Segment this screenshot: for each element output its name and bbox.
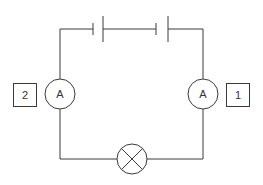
wire-top-right xyxy=(168,29,203,79)
label-box-1: 1 xyxy=(227,84,250,107)
ammeter-left-icon: A xyxy=(45,79,75,109)
wire-top-left xyxy=(60,29,93,79)
lamp-icon xyxy=(117,144,147,174)
ammeter-left-symbol: A xyxy=(56,88,64,100)
label-2-text: 2 xyxy=(22,89,28,101)
label-box-2: 2 xyxy=(14,84,37,107)
ammeter-right-icon: A xyxy=(188,79,218,109)
wire-bottom-right xyxy=(147,109,203,159)
wires xyxy=(60,29,203,159)
label-1-text: 1 xyxy=(235,89,241,101)
circuit-diagram: A A 2 1 xyxy=(0,0,263,185)
ammeter-right-symbol: A xyxy=(199,88,207,100)
wire-bottom-left xyxy=(60,109,117,159)
